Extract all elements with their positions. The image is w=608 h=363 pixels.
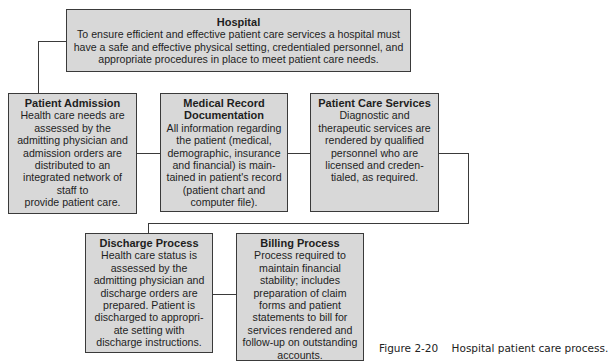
connector-discharge-to-billing xyxy=(213,294,236,295)
node-body: To ensure efficient and effective patien… xyxy=(67,28,410,65)
node-title: Discharge Process xyxy=(86,237,212,249)
connector-care-to-discharge-v2 xyxy=(148,223,149,233)
connector-care-to-discharge-v1 xyxy=(468,153,469,224)
node-body: All information regarding the patient (m… xyxy=(161,122,287,209)
connector-admission-to-record xyxy=(137,153,160,154)
node-patient-admission: Patient Admission Health care needs are … xyxy=(8,93,137,214)
node-body: Process required to maintain financial s… xyxy=(237,249,363,361)
connector-care-to-discharge-h1 xyxy=(439,153,469,154)
node-body: Health care needs are assessed by the ad… xyxy=(9,109,136,208)
node-title: Hospital xyxy=(67,16,410,28)
connector-care-to-discharge-h2 xyxy=(148,223,469,224)
connector-hospital-to-admission-v xyxy=(38,41,39,93)
node-title: Patient Admission xyxy=(9,97,136,109)
node-title: Patient Care Services xyxy=(311,97,438,109)
figure-caption: Figure 2-20 Hospital patient care proces… xyxy=(379,342,608,354)
node-body: Health care status is assessed by the ad… xyxy=(86,249,212,348)
node-billing-process: Billing Process Process required to main… xyxy=(236,233,364,361)
connector-record-to-care xyxy=(288,153,310,154)
node-title: Billing Process xyxy=(237,237,363,249)
node-title: Medical Record Documentation xyxy=(161,97,287,122)
node-discharge-process: Discharge Process Health care status is … xyxy=(85,233,213,353)
node-body: Diagnostic and therapeutic services are … xyxy=(311,109,438,183)
connector-hospital-to-admission-h xyxy=(38,41,66,42)
node-medical-record: Medical Record Documentation All informa… xyxy=(160,93,288,212)
node-patient-care-services: Patient Care Services Diagnostic and the… xyxy=(310,93,439,212)
node-hospital: Hospital To ensure efficient and effecti… xyxy=(66,9,411,72)
